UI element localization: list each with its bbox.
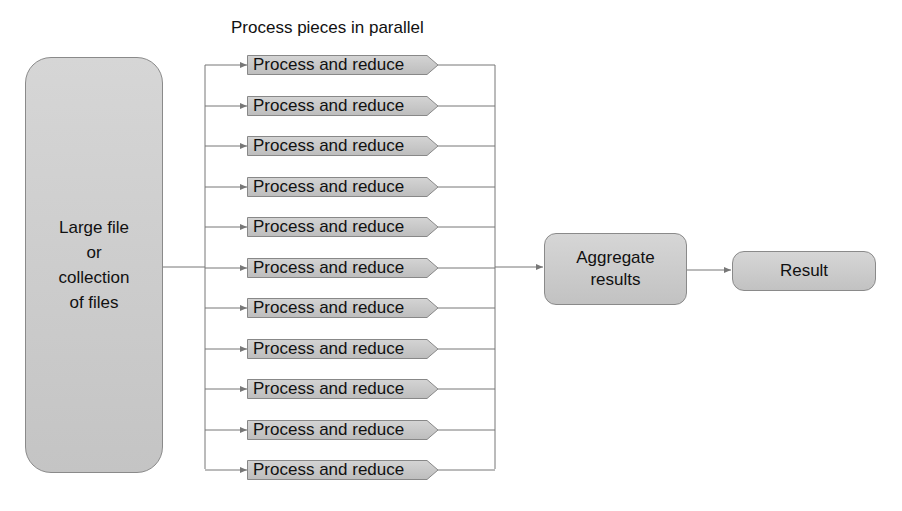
source-line: of files	[59, 290, 130, 315]
worker-label: Process and reduce	[253, 258, 404, 278]
process-and-reduce-step: Process and reduce	[247, 96, 439, 116]
worker-label: Process and reduce	[253, 217, 404, 237]
worker-label: Process and reduce	[253, 96, 404, 116]
aggregate-line: Aggregate	[576, 247, 654, 269]
worker-label: Process and reduce	[253, 177, 404, 197]
process-and-reduce-step: Process and reduce	[247, 55, 439, 75]
process-and-reduce-step: Process and reduce	[247, 379, 439, 399]
worker-label: Process and reduce	[253, 420, 404, 440]
result-label: Result	[780, 261, 828, 281]
worker-label: Process and reduce	[253, 460, 404, 480]
worker-label: Process and reduce	[253, 55, 404, 75]
aggregate-line: results	[576, 269, 654, 291]
worker-label: Process and reduce	[253, 339, 404, 359]
process-and-reduce-step: Process and reduce	[247, 177, 439, 197]
process-and-reduce-step: Process and reduce	[247, 420, 439, 440]
worker-label: Process and reduce	[253, 379, 404, 399]
process-and-reduce-step: Process and reduce	[247, 298, 439, 318]
worker-label: Process and reduce	[253, 136, 404, 156]
process-and-reduce-step: Process and reduce	[247, 136, 439, 156]
process-and-reduce-step: Process and reduce	[247, 460, 439, 480]
source-line: or	[59, 240, 130, 265]
worker-label: Process and reduce	[253, 298, 404, 318]
source-files-box: Large file or collection of files	[25, 57, 163, 473]
source-line: collection	[59, 265, 130, 290]
process-and-reduce-step: Process and reduce	[247, 339, 439, 359]
process-and-reduce-step: Process and reduce	[247, 258, 439, 278]
process-and-reduce-step: Process and reduce	[247, 217, 439, 237]
source-line: Large file	[59, 215, 130, 240]
aggregate-results-box: Aggregate results	[544, 233, 687, 305]
result-box: Result	[732, 251, 876, 291]
